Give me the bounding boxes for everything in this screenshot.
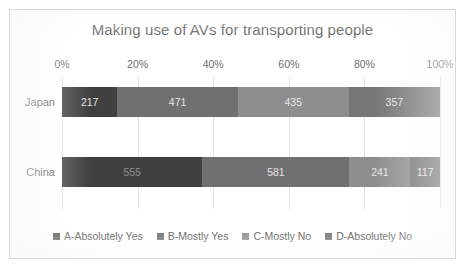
x-axis-tick-60: 60%	[278, 58, 299, 70]
legend-label: C-Mostly No	[253, 230, 311, 242]
bar-value-label: 241	[371, 166, 389, 178]
legend-swatch-icon	[53, 233, 60, 240]
x-axis-tick-80: 80%	[354, 58, 375, 70]
category-label-japan: Japan	[25, 96, 55, 108]
bar-segment-china-d: 117	[410, 157, 440, 187]
legend-item-d[interactable]: D-Absolutely No	[325, 230, 412, 242]
bar-segment-japan-d: 357	[349, 87, 440, 117]
legend-swatch-icon	[157, 233, 164, 240]
bar-row-china: China555581241117	[62, 157, 440, 187]
legend-swatch-icon	[325, 233, 332, 240]
legend-swatch-icon	[242, 233, 249, 240]
legend-item-b[interactable]: B-Mostly Yes	[157, 230, 229, 242]
bar-segment-japan-b: 471	[117, 87, 237, 117]
bar-segment-china-a: 555	[62, 157, 202, 187]
bar-value-label: 435	[284, 96, 302, 108]
bar-segment-japan-a: 217	[62, 87, 117, 117]
x-axis-tick-labels: 0%20%40%60%80%100%	[62, 58, 440, 74]
legend-label: D-Absolutely No	[336, 230, 412, 242]
gridline-100	[440, 77, 441, 209]
legend-label: A-Absolutely Yes	[64, 230, 143, 242]
bar-value-label: 581	[267, 166, 285, 178]
chart-legend: A-Absolutely YesB-Mostly YesC-Mostly NoD…	[10, 230, 455, 242]
x-axis-tick-20: 20%	[127, 58, 148, 70]
bar-segment-china-c: 241	[349, 157, 410, 187]
bar-value-label: 471	[169, 96, 187, 108]
legend-item-c[interactable]: C-Mostly No	[242, 230, 311, 242]
category-label-china: China	[26, 166, 55, 178]
bar-segment-japan-c: 435	[238, 87, 349, 117]
bar-row-japan: Japan217471435357	[62, 87, 440, 117]
chart-title: Making use of AVs for transporting peopl…	[10, 21, 455, 38]
chart-container: Making use of AVs for transporting peopl…	[9, 9, 456, 259]
bar-value-label: 555	[123, 166, 141, 178]
bar-value-label: 117	[417, 166, 434, 178]
bar-segment-china-b: 581	[202, 157, 349, 187]
legend-label: B-Mostly Yes	[168, 230, 229, 242]
bar-value-label: 357	[386, 96, 404, 108]
plot-area: Japan217471435357China555581241117	[62, 77, 440, 209]
bar-value-label: 217	[81, 96, 99, 108]
x-axis-tick-0: 0%	[54, 58, 69, 70]
legend-item-a[interactable]: A-Absolutely Yes	[53, 230, 143, 242]
x-axis-tick-40: 40%	[203, 58, 224, 70]
x-axis-tick-100: 100%	[427, 58, 454, 70]
